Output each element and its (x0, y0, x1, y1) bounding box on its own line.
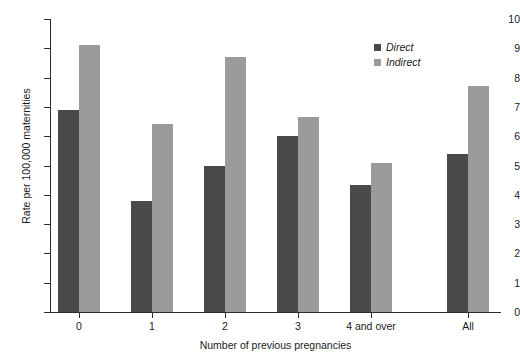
y-tick-mark (44, 224, 50, 225)
x-tick-label: 0 (76, 320, 82, 332)
x-tick-mark (225, 313, 226, 318)
x-tick-mark (298, 313, 299, 318)
y-tick-mark (44, 195, 50, 196)
x-axis-title: Number of previous pregnancies (50, 339, 501, 351)
bar-indirect-2 (225, 57, 246, 312)
legend-label: Indirect (386, 56, 420, 68)
legend: DirectIndirect (374, 40, 420, 70)
legend-swatch-icon (374, 44, 381, 51)
legend-item-direct: Direct (374, 40, 420, 54)
x-tick-label: 2 (222, 320, 228, 332)
bar-direct-2 (204, 166, 225, 313)
y-tick-label: 8 (480, 73, 520, 84)
y-tick-mark (44, 283, 50, 284)
x-tick-mark (152, 313, 153, 318)
x-tick-mark (371, 313, 372, 318)
x-tick-label: 3 (295, 320, 301, 332)
y-tick-mark (44, 107, 50, 108)
bar-direct-4-and-over (350, 185, 371, 312)
x-axis-line (50, 312, 501, 313)
y-tick-mark (44, 253, 50, 254)
y-axis-line (50, 19, 51, 313)
y-tick-label: 10 (480, 14, 520, 25)
bar-direct-All (447, 154, 468, 312)
bar-chart: Rate per 100,000 maternities 01234567891… (0, 0, 520, 360)
x-tick-mark (79, 313, 80, 318)
x-tick-label: 1 (149, 320, 155, 332)
bar-direct-1 (131, 201, 152, 312)
bar-indirect-1 (152, 124, 173, 312)
legend-swatch-icon (374, 59, 381, 66)
y-tick-mark (44, 78, 50, 79)
y-tick-mark (44, 136, 50, 137)
y-tick-mark (44, 48, 50, 49)
bar-indirect-4-and-over (371, 163, 392, 312)
legend-item-indirect: Indirect (374, 55, 420, 69)
y-tick-mark (44, 19, 50, 20)
bar-direct-0 (58, 110, 79, 312)
y-axis-title: Rate per 100,000 maternities (20, 26, 32, 286)
x-tick-label: 4 and over (346, 320, 396, 332)
x-tick-label: All (462, 320, 474, 332)
bar-indirect-All (468, 86, 489, 312)
bar-indirect-3 (298, 117, 319, 312)
x-tick-mark (468, 313, 469, 318)
bar-indirect-0 (79, 45, 100, 312)
y-tick-mark (44, 166, 50, 167)
legend-label: Direct (386, 41, 413, 53)
bar-direct-3 (277, 136, 298, 312)
y-tick-label: 9 (480, 43, 520, 54)
